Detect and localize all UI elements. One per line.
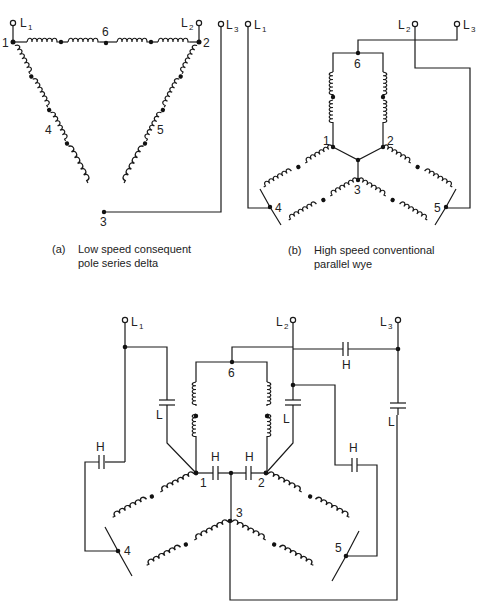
svg-text:3: 3 (354, 183, 361, 197)
label-l2-a: L (181, 16, 188, 30)
svg-text:5: 5 (434, 201, 441, 215)
svg-text:5: 5 (335, 541, 342, 555)
svg-text:L: L (398, 18, 405, 32)
cap-label-h-left: H (96, 440, 105, 454)
caption-b-line2: parallel wye (288, 258, 372, 270)
node-1-a (11, 40, 16, 45)
label-node-6-a: 6 (102, 25, 109, 39)
wiring-diagrams: L 1 L 2 L 3 6 (0, 0, 487, 613)
node-6-b (356, 51, 360, 55)
cap-label-l2: L (283, 412, 290, 426)
svg-text:3: 3 (388, 322, 393, 331)
svg-text:2: 2 (406, 25, 411, 34)
cap-label-l3: L (388, 415, 395, 429)
svg-text:1: 1 (200, 476, 207, 490)
svg-text:6: 6 (228, 366, 235, 380)
svg-text:6: 6 (354, 57, 361, 71)
diagram-a-delta: L 1 L 2 L 3 6 (2, 16, 239, 229)
svg-text:2: 2 (189, 23, 194, 32)
diagram-c-switching: L 1 L H 6 (85, 315, 406, 600)
terminal-l2-c (290, 317, 295, 322)
label-node-1-a: 1 (2, 36, 9, 50)
terminal-l2-a (196, 20, 201, 25)
label-l3-a: L (226, 18, 233, 32)
terminal-l2-b (412, 21, 417, 26)
cap-label-h-2: H (245, 450, 254, 464)
node-6-a (104, 41, 108, 45)
svg-text:1: 1 (28, 23, 33, 32)
terminal-l3-a (218, 21, 223, 26)
cap-label-h-right: H (349, 441, 358, 455)
svg-text:2: 2 (284, 322, 289, 331)
caption-b-tag: (b) (288, 243, 314, 257)
svg-text:2: 2 (258, 476, 265, 490)
svg-text:L: L (131, 315, 138, 329)
node-3-a (102, 210, 106, 214)
caption-a-line2: pole series delta (52, 257, 158, 269)
svg-text:L: L (463, 18, 470, 32)
caption-a: (a)Low speed consequent pole series delt… (52, 242, 191, 270)
node-2-a (197, 40, 202, 45)
cap-label-h-1: H (211, 450, 220, 464)
svg-text:1: 1 (323, 134, 330, 148)
svg-text:4: 4 (124, 544, 131, 558)
node-4-c (116, 549, 121, 554)
caption-b: (b)High speed conventional parallel wye (288, 243, 434, 271)
cap-label-l1: L (156, 408, 163, 422)
terminal-l3-c (395, 317, 400, 322)
terminal-l1-a (10, 20, 15, 25)
node-4-b (268, 205, 272, 209)
caption-b-line1: High speed conventional (314, 244, 434, 256)
terminal-l3-b (454, 21, 459, 26)
svg-text:3: 3 (471, 25, 476, 34)
terminal-l1-c (122, 317, 127, 322)
caption-a-tag: (a) (52, 242, 78, 256)
node-5-b (444, 205, 448, 209)
svg-text:1: 1 (262, 25, 267, 34)
svg-text:L: L (254, 18, 261, 32)
terminal-l1-b (245, 21, 250, 26)
svg-text:1: 1 (139, 322, 144, 331)
svg-text:L: L (276, 315, 283, 329)
label-node-5-a: 5 (157, 123, 164, 137)
caption-a-line1: Low speed consequent (78, 243, 191, 255)
svg-text:3: 3 (236, 506, 243, 520)
label-node-2-a: 2 (203, 36, 210, 50)
cap-label-h-top: H (342, 358, 351, 372)
svg-text:3: 3 (234, 25, 239, 34)
label-node-3-a: 3 (100, 215, 107, 229)
diagram-b-wye: L 1 L 2 L 3 6 (245, 18, 476, 225)
svg-text:4: 4 (275, 201, 282, 215)
label-l1-a: L (20, 16, 27, 30)
label-node-4-a: 4 (45, 123, 52, 137)
svg-text:L: L (380, 315, 387, 329)
